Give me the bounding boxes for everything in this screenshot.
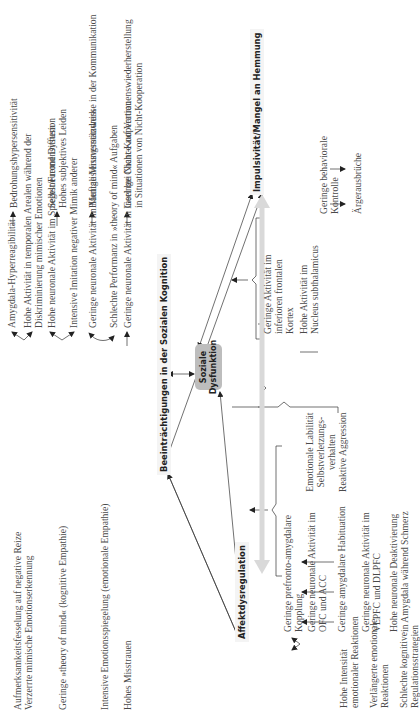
text-line: Regulationsstrategien — [409, 625, 420, 708]
text-line: Reaktionen — [379, 619, 390, 708]
text-line: in Amygdala während Schmerz — [399, 511, 410, 632]
text-line: Nucleus subthalamicus — [309, 245, 320, 334]
text-line: Diskriminierung mimischer Emotionen — [33, 134, 44, 328]
affect-neural-1a: Geringe prefronto-amygdalare Kopplung — [282, 515, 304, 632]
arrow-row1a — [12, 332, 24, 340]
text-line: Geringe Aktivität im — [262, 255, 273, 334]
sc-consequence-2: Selbst/Fremd Diffusion Hohes subjektives… — [46, 109, 68, 208]
text-line: inferioren frontalen — [273, 255, 284, 334]
affect-symptom-3: Schlechte kognitive Regulationsstrategie… — [398, 625, 420, 708]
text-line: VLPFC und DLPFC — [371, 512, 382, 632]
text-line: Kontrolle — [329, 136, 340, 214]
text-line: Verzerrte mimische Emotionserkennung — [23, 532, 34, 710]
sc-consequence-4: Geringe Chance auf Vertrauenswiederherst… — [122, 19, 144, 208]
text-line: OFC und ACC — [317, 512, 328, 632]
sc-consequence-3: Häufige Missverständnisse in der Kommuni… — [87, 15, 98, 208]
text-line: Selbst/Fremd Diffusion — [46, 109, 57, 208]
text-line: verhalten — [326, 412, 337, 492]
text-line: in Situationen von Nicht-Kooperation — [133, 19, 144, 208]
text-line: emotionaler Reaktionen — [349, 616, 360, 708]
grey-bidirectional-arrow — [254, 194, 270, 574]
sc-symptom-4: Hohes Misstrauen — [122, 640, 133, 710]
sc-neural-1a: Amygdala-Hyperreagibilität — [6, 219, 17, 328]
text-line: Kopplung — [293, 515, 304, 632]
affect-neural-4: Hohe neuronale Deaktivierung in Amygdala… — [388, 511, 410, 632]
text-line: Hohe Aktivität in temporalen Arealen wäh… — [22, 134, 33, 328]
affect-symptom-2: Verlängerte emotionale Reaktionen — [368, 619, 390, 708]
sc-consequence-1: Bedrohungshypersensitivität — [8, 98, 19, 208]
text-line: Geringe neuronale Aktivität im — [360, 512, 371, 632]
text-line: Geringe prefronto-amygdalare — [282, 515, 293, 632]
diagram-canvas: Beeinträchtigungen in der Sozialen Kogni… — [0, 0, 420, 714]
heading-impulsivity: Impulsivität/Mangel an Hemmung — [250, 29, 264, 195]
affect-neural-2: Geringe amygdalare Habituation — [336, 506, 347, 632]
text-line: Kortex — [284, 255, 295, 334]
center-box-line1: Soziale — [199, 351, 209, 383]
sc-symptom-1: Aufmerksamkeitsfesselung auf negative Re… — [12, 532, 34, 710]
center-box-social-dysfunction: Soziale Dysfunktion — [195, 344, 222, 390]
text-line: Hohes subjektives Leiden — [57, 109, 68, 208]
sc-neural-3b: Schlechte Performanz in »theory of mind«… — [108, 125, 119, 328]
sc-symptom-3: Intensive Emotionsspiegelung (emotionale… — [99, 504, 110, 710]
impulsivity-consequence-1: Geringe behaviorale Kontrolle — [318, 136, 340, 214]
text-line: Schlechte kognitive — [398, 625, 409, 708]
impulsivity-neural-1: Geringe Aktivität im inferioren frontale… — [262, 255, 295, 334]
sc-neural-2b: Intensive Imitation negativer Mimik ande… — [68, 158, 79, 329]
text-line: Geringe neuronale Aktivität im — [306, 512, 317, 632]
impulsivity-neural-2: Hohe Aktivität im Nucleus subthalamicus — [298, 245, 320, 334]
text-line: Geringe Chance auf Vertrauenswiederherst… — [122, 19, 133, 208]
affect-neural-1b: Geringe neuronale Aktivität im OFC und A… — [306, 512, 328, 632]
sc-neural-1b: Hohe Aktivität in temporalen Arealen wäh… — [22, 134, 44, 328]
text-line: Hohe neuronale Deaktivierung — [388, 511, 399, 632]
center-box-line2: Dysfunktion — [209, 340, 219, 395]
heading-social-cognition: Beeinträchtigungen in der Sozialen Kogni… — [157, 254, 171, 475]
heading-affect-dysregulation: Affektdysregulation — [235, 542, 249, 642]
sc-symptom-2: Geringe »theory of mind« (kognitive Empa… — [57, 526, 68, 710]
arrow-row1b — [24, 332, 32, 340]
text-line: Selbstverletzungs- — [315, 412, 326, 492]
impulsivity-consequence-2: Ärgerausbrüche — [352, 153, 363, 214]
text-line: Aufmerksamkeitsfesselung auf negative Re… — [12, 532, 23, 710]
text-line: Reaktive Aggression — [337, 412, 348, 492]
text-line: Geringe behaviorale — [318, 136, 329, 214]
shared-outcomes: Emotionale Labilität Selbstverletzungs- … — [304, 412, 348, 492]
text-line: Verlängerte emotionale — [368, 619, 379, 708]
text-line: Hohe Aktivität im — [298, 245, 309, 334]
text-line: Emotionale Labilität — [304, 412, 315, 492]
affect-neural-3: Geringe neuronale Aktivität im VLPFC und… — [360, 512, 382, 632]
